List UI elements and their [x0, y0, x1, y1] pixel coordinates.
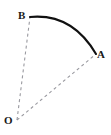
diagram-canvas	[0, 0, 111, 135]
radius-ob-dashed-line	[17, 17, 30, 120]
radius-oa-dashed-line	[17, 54, 96, 120]
arc-ab-curve	[30, 17, 96, 54]
sector-diagram: B A O	[0, 0, 111, 135]
vertex-label-b: B	[18, 10, 25, 21]
vertex-label-o: O	[4, 115, 13, 126]
vertex-label-a: A	[97, 49, 105, 60]
